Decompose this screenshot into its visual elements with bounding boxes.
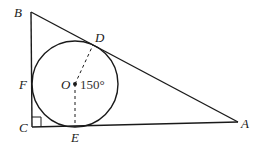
angle-label: 150° — [80, 77, 105, 92]
label-f: F — [18, 77, 28, 92]
side-ab — [31, 12, 238, 122]
label-c: C — [19, 120, 28, 135]
label-d: D — [94, 30, 105, 45]
label-o: O — [61, 77, 71, 92]
right-angle-marker — [32, 117, 41, 127]
triangle-incircle-diagram: B D F O 150° C E A — [0, 0, 261, 145]
label-e: E — [70, 130, 79, 145]
label-b: B — [14, 5, 22, 20]
center-point-o — [73, 82, 77, 86]
side-ca — [32, 122, 238, 127]
label-a: A — [240, 116, 249, 131]
side-bc — [31, 12, 32, 127]
